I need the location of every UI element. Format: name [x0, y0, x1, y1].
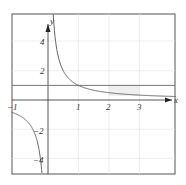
x-tick-label: −1: [7, 102, 18, 112]
x-tick-label: 2: [106, 102, 111, 112]
x-axis-label: x: [173, 95, 178, 105]
y-tick-label: −4: [33, 155, 44, 165]
y-tick-label: 2: [40, 66, 45, 76]
plot-frame: [12, 14, 175, 174]
y-tick-label: 4: [40, 37, 45, 47]
chart: x y −1 1 2 3 4 2 −2 −4: [0, 0, 186, 185]
y-tick-label: −2: [33, 126, 44, 136]
x-tick-label: 1: [76, 102, 81, 112]
y-axis-label: y: [49, 16, 54, 26]
x-tick-label: 3: [136, 102, 142, 112]
